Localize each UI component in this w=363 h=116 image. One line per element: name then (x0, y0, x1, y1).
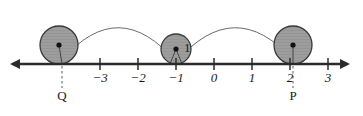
axis-tick-label-5: 2 (287, 70, 294, 85)
point-label-q: Q (57, 88, 67, 103)
circle-left-center-dot (56, 42, 61, 47)
circle-right-center-dot (290, 42, 295, 47)
axis-tick-label-0: −3 (92, 70, 108, 85)
circle-middle-label: 1 (184, 40, 191, 55)
arc-left-to-middle (62, 28, 176, 62)
axis-tick-label-4: 1 (249, 70, 256, 85)
circle-middle-center-dot (173, 46, 178, 51)
rolling-circle-diagram: 1 −3−2−10123 Q P (0, 0, 363, 116)
circle-right (274, 26, 312, 64)
axis-tick-label-6: 3 (324, 70, 332, 85)
axis-tick-label-3: 0 (211, 70, 218, 85)
axis-arrow-right (340, 59, 350, 69)
axis-tick-label-1: −2 (130, 70, 146, 85)
axis-arrow-left (10, 59, 20, 69)
axis-tick-label-2: −1 (168, 70, 183, 85)
point-label-group: Q P (57, 88, 296, 103)
figure-canvas: 1 −3−2−10123 Q P (0, 0, 363, 116)
circle-left (40, 26, 78, 64)
point-label-p: P (289, 88, 296, 103)
